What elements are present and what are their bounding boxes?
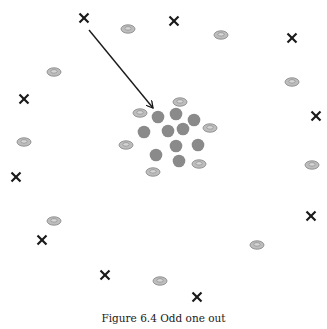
cluster-dots	[138, 108, 205, 168]
cross-icon	[20, 95, 29, 104]
cross-icon	[193, 293, 202, 302]
cross-icon	[170, 17, 179, 26]
cross-icon	[12, 173, 21, 182]
disc-markers	[17, 25, 319, 285]
disc-icon	[17, 138, 31, 146]
cross-markers	[12, 14, 321, 302]
cluster-dot-icon	[170, 108, 183, 121]
cross-icon	[288, 34, 297, 43]
cluster-dot-icon	[170, 140, 183, 153]
figure-canvas: Figure 6.4 Odd one out	[0, 0, 327, 329]
disc-icon	[133, 109, 147, 117]
cluster-dot-icon	[138, 126, 151, 139]
figure-caption: Figure 6.4 Odd one out	[0, 312, 327, 324]
disc-icon	[119, 141, 133, 149]
cross-icon	[101, 271, 110, 280]
disc-icon	[214, 31, 228, 39]
disc-icon	[153, 277, 167, 285]
disc-icon	[146, 168, 160, 176]
disc-icon	[121, 25, 135, 33]
cluster-dot-icon	[162, 125, 175, 138]
cluster-dot-icon	[177, 123, 190, 136]
cross-icon	[312, 112, 321, 121]
disc-icon	[203, 124, 217, 132]
disc-icon	[47, 68, 61, 76]
arrow-icon	[89, 30, 153, 108]
cluster-dot-icon	[173, 155, 186, 168]
disc-icon	[285, 78, 299, 86]
disc-icon	[47, 217, 61, 225]
cross-icon	[307, 212, 316, 221]
disc-icon	[305, 161, 319, 169]
cross-icon	[80, 14, 89, 23]
cross-icon	[38, 236, 47, 245]
odd-one-out-diagram	[0, 0, 327, 329]
cluster-dot-icon	[192, 139, 205, 152]
cluster-dot-icon	[188, 114, 201, 127]
disc-icon	[173, 98, 187, 106]
cluster-dot-icon	[150, 149, 163, 162]
cluster-dot-icon	[152, 111, 165, 124]
disc-icon	[250, 241, 264, 249]
disc-icon	[192, 160, 206, 168]
